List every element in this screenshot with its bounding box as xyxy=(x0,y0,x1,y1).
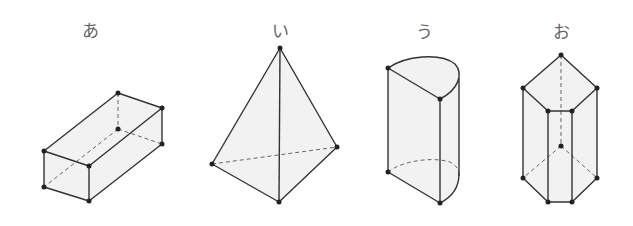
vertex xyxy=(438,97,443,102)
vertex xyxy=(116,91,121,96)
vertex xyxy=(438,201,443,206)
vertex xyxy=(160,142,165,147)
rectangular-prism xyxy=(42,91,165,204)
pentagonal-prism xyxy=(521,53,600,205)
vertex xyxy=(546,200,551,205)
vertex xyxy=(595,86,600,91)
vertex xyxy=(278,46,283,51)
vertex xyxy=(570,200,575,205)
vertex xyxy=(595,176,600,181)
vertex xyxy=(277,200,282,205)
vertex xyxy=(160,106,165,111)
vertex xyxy=(87,199,92,204)
half-cylinder xyxy=(386,57,461,206)
cylinder-u-fill xyxy=(388,57,460,203)
solids-figure: あ い う お xyxy=(0,0,633,226)
vertex xyxy=(521,86,526,91)
vertex xyxy=(116,127,121,132)
vertex xyxy=(42,185,47,190)
solids-canvas xyxy=(0,0,633,226)
vertex xyxy=(87,164,92,169)
vertex xyxy=(570,109,575,114)
vertex xyxy=(386,170,391,175)
triangular-pyramid xyxy=(210,46,340,205)
vertex xyxy=(335,145,340,150)
vertex xyxy=(559,144,564,149)
vertex xyxy=(521,176,526,181)
vertex xyxy=(210,162,215,167)
vertex xyxy=(42,149,47,154)
vertex xyxy=(546,109,551,114)
prism-a-fill xyxy=(44,93,162,201)
vertex xyxy=(386,66,391,71)
vertex xyxy=(559,53,564,58)
edge xyxy=(279,48,280,202)
pyramid-i-fill xyxy=(212,48,337,202)
